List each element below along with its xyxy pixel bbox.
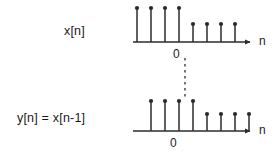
stem-plots-canvas: [0, 0, 277, 162]
stem-marker: [191, 22, 195, 26]
stem-marker: [163, 99, 167, 103]
stem-marker: [149, 6, 153, 10]
stem-marker: [219, 112, 223, 116]
signal-shift-figure: x[n] y[n] = x[n-1] 0 0 n n: [0, 0, 277, 162]
stem-marker: [177, 6, 181, 10]
stem-plot-bottom: [133, 99, 251, 131]
stem-marker: [205, 112, 209, 116]
stem-marker: [163, 6, 167, 10]
stem-marker: [233, 112, 237, 116]
stem-marker: [205, 22, 209, 26]
stem-marker: [233, 22, 237, 26]
stem-plot-top: [133, 6, 250, 42]
stem-marker: [191, 99, 195, 103]
stem-marker: [219, 22, 223, 26]
stem-marker: [149, 99, 153, 103]
stem-marker: [247, 112, 251, 116]
stem-marker: [135, 6, 139, 10]
stem-marker: [177, 99, 181, 103]
